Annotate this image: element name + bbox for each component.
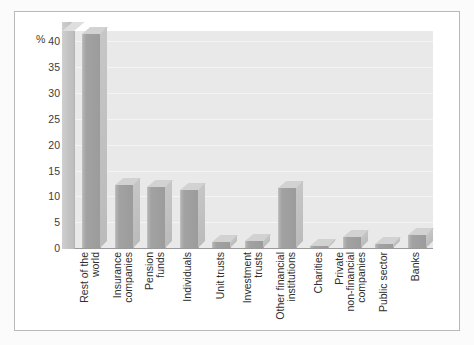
bar-face [278, 188, 297, 248]
x-axis-label-line: Individuals [182, 252, 193, 302]
x-axis-label-line: trusts [253, 252, 264, 278]
bar [408, 235, 426, 248]
bar-side-face [100, 27, 107, 248]
x-axis-label-line: Other financial [275, 252, 286, 320]
x-axis-tick-label: Investmenttrusts [237, 252, 270, 330]
x-axis-label-line: world [90, 252, 101, 277]
gridline [75, 171, 433, 172]
y-axis: 4035302520151050 [26, 31, 60, 249]
bar-side-face [296, 181, 303, 248]
x-axis-label-line: companies [356, 252, 367, 303]
y-axis-tick-label: 40 [34, 36, 60, 46]
x-axis-tick-label: Other financialinstitutions [269, 252, 302, 330]
y-axis-tick-label: 10 [34, 191, 60, 201]
gridline [75, 119, 433, 120]
x-axis-label-line: Unit trusts [215, 252, 226, 299]
x-axis-tick-label: Pensionfunds [139, 252, 172, 330]
chart-figure: % 4035302520151050 Rest of theworldInsur… [0, 0, 474, 345]
x-axis-label-line: Banks [410, 252, 421, 281]
bar-face [245, 241, 264, 248]
bar-face [115, 185, 134, 248]
plot-area [74, 31, 433, 249]
bar-side-face [198, 183, 205, 248]
bar-face [375, 244, 394, 248]
bar [212, 242, 230, 248]
x-axis-label-line: institutions [286, 252, 297, 302]
bar-face [180, 190, 199, 248]
bar [278, 188, 296, 248]
gridline [75, 145, 433, 146]
gridline [75, 93, 433, 94]
bar-face [408, 235, 427, 248]
bar-face [82, 34, 101, 248]
bar [245, 241, 263, 248]
bar [343, 237, 361, 248]
bar [82, 34, 100, 248]
x-axis-label-line: Charities [313, 252, 324, 293]
x-axis-tick-label: Privatenon-financialcompanies [334, 252, 367, 330]
bar-side-face [165, 180, 172, 248]
bar [147, 187, 165, 248]
y-axis-tick-label: 15 [34, 166, 60, 176]
x-axis-tick-label: Charities [302, 252, 335, 330]
bar [115, 185, 133, 248]
bar [375, 244, 393, 248]
y-axis-tick-label: 30 [34, 88, 60, 98]
x-axis-tick-label: Public sector [367, 252, 400, 330]
bar-face [343, 237, 362, 248]
x-axis-tick-label: Rest of theworld [74, 252, 107, 330]
x-axis-label-line: Public sector [378, 252, 389, 312]
y-axis-tick-label: 25 [34, 114, 60, 124]
x-axis-labels: Rest of theworldInsurancecompaniesPensio… [74, 252, 433, 330]
y-axis-tick-label: 20 [34, 140, 60, 150]
x-axis-tick-label: Unit trusts [204, 252, 237, 330]
bar-face [147, 187, 166, 248]
x-axis-label-line: companies [123, 252, 134, 303]
bar [180, 190, 198, 248]
x-axis-tick-label: Banks [399, 252, 432, 330]
y-axis-tick-label: 0 [34, 243, 60, 253]
x-axis-tick-label: Individuals [172, 252, 205, 330]
bar-face [212, 242, 231, 248]
gridline [75, 67, 433, 68]
x-axis-tick-label: Insurancecompanies [107, 252, 140, 330]
bar [310, 246, 328, 248]
gridline [75, 41, 433, 42]
x-axis-label-line: funds [155, 252, 166, 278]
bar-side-face [133, 178, 140, 248]
y-axis-tick-label: 35 [34, 62, 60, 72]
y-axis-tick-label: 5 [34, 217, 60, 227]
chart-left-wall [62, 22, 74, 249]
bar-face [310, 246, 329, 248]
